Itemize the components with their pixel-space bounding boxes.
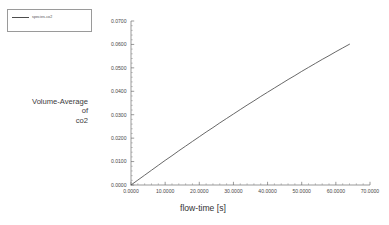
y-tick-label: 0.0300 (111, 112, 127, 118)
x-axis-tick-labels: 0.000010.000020.000030.000040.000050.000… (123, 188, 379, 194)
y-tick-label: 0.0700 (111, 18, 127, 24)
chart-figure: species-co2 Volume-Average of co2 flow-t… (0, 0, 389, 225)
y-axis-ticks (131, 21, 134, 185)
y-axis-tick-labels: 0.00000.01000.02000.03000.04000.05000.06… (111, 18, 127, 188)
y-tick-label: 0.0100 (111, 158, 127, 164)
x-axis-ticks (131, 182, 370, 185)
y-tick-label: 0.0400 (111, 88, 127, 94)
x-tick-label: 50.0000 (293, 188, 312, 194)
x-tick-label: 40.0000 (258, 188, 277, 194)
series-line-species-co2 (131, 44, 350, 185)
data-series-group (131, 44, 350, 185)
y-tick-label: 0.0000 (111, 182, 127, 188)
x-tick-label: 70.0000 (361, 188, 380, 194)
x-tick-label: 30.0000 (224, 188, 243, 194)
plot-area: 0.00000.01000.02000.03000.04000.05000.06… (0, 0, 389, 225)
x-tick-label: 20.0000 (190, 188, 209, 194)
x-tick-label: 60.0000 (327, 188, 346, 194)
y-tick-label: 0.0600 (111, 41, 127, 47)
y-tick-label: 0.0200 (111, 135, 127, 141)
x-tick-label: 10.0000 (156, 188, 175, 194)
y-tick-label: 0.0500 (111, 65, 127, 71)
x-tick-label: 0.0000 (123, 188, 139, 194)
